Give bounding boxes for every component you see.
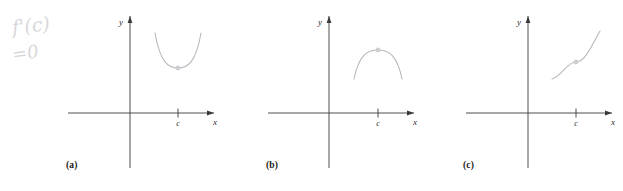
tick-label-c-b: c (376, 119, 380, 128)
x-axis-label-c: x (610, 117, 615, 127)
y-axis-arrow-b (327, 16, 332, 23)
panel-caption-a: (a) (66, 160, 78, 170)
figure-root: y x c y x c y x (0, 0, 623, 191)
curve-downward-parabola-b (354, 50, 402, 79)
tick-label-c-a: c (176, 119, 180, 128)
x-axis-arrow-c (605, 111, 612, 116)
panel-b-plot: y x c (208, 0, 416, 191)
x-axis-arrow-b (407, 111, 414, 116)
critical-point-dot-b (376, 48, 381, 53)
panel-c: y x c (415, 0, 623, 191)
y-axis-arrow-a (128, 16, 133, 23)
panel-c-plot: y x c (415, 0, 623, 191)
panel-a: y x c (0, 0, 208, 191)
tick-label-c-c: c (574, 119, 578, 128)
panel-b: y x c (208, 0, 416, 191)
y-axis-label-c: y (516, 17, 521, 27)
y-axis-arrow-c (526, 16, 531, 23)
curve-cubic-s-c (552, 31, 600, 79)
panel-caption-c: (c) (463, 160, 474, 170)
y-axis-label-b: y (317, 17, 322, 27)
panel-a-plot: y x c (0, 0, 208, 191)
critical-point-dot-a (176, 66, 181, 71)
curve-upward-parabola-a (155, 33, 201, 68)
panel-caption-b: (b) (266, 160, 278, 170)
critical-point-dot-c (574, 60, 579, 65)
y-axis-label-a: y (118, 17, 123, 27)
